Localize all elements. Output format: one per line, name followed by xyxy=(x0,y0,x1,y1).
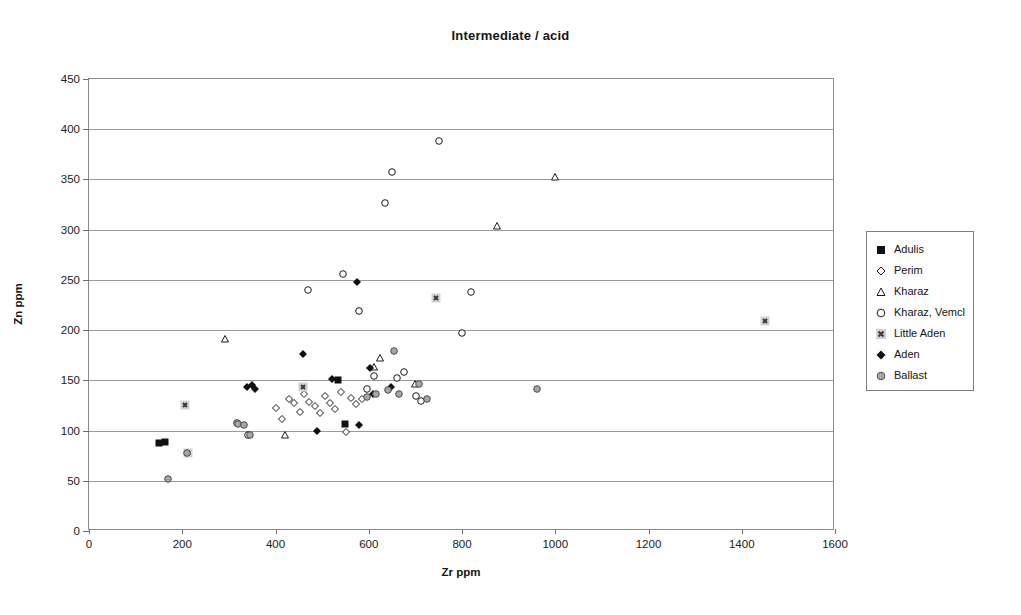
x-tick-label: 1400 xyxy=(729,538,755,550)
legend-item-little-aden[interactable]: Little Aden xyxy=(874,323,968,344)
legend-label: Perim xyxy=(894,265,923,276)
data-point xyxy=(414,380,423,389)
x-tick-mark xyxy=(835,529,836,534)
legend-label: Adulis xyxy=(894,244,924,255)
data-point xyxy=(278,414,287,423)
x-tick-label: 1200 xyxy=(636,538,662,550)
chart-legend: AdulisPerimKharazKharaz, VemclLittle Ade… xyxy=(866,231,974,391)
data-point xyxy=(492,221,501,230)
legend-marker-icon xyxy=(874,326,889,341)
data-point xyxy=(339,269,348,278)
gridline-horizontal xyxy=(89,280,833,281)
legend-marker-icon xyxy=(874,263,889,278)
data-point xyxy=(182,448,191,457)
data-point xyxy=(370,372,379,381)
data-point xyxy=(280,430,289,439)
data-point xyxy=(761,317,770,326)
y-tick-label: 150 xyxy=(61,374,80,386)
x-tick-label: 600 xyxy=(359,538,378,550)
x-tick-mark xyxy=(276,529,277,534)
data-point xyxy=(316,409,325,418)
data-point xyxy=(362,393,371,402)
y-tick-mark xyxy=(83,280,89,281)
data-point xyxy=(551,173,560,182)
gridline-horizontal xyxy=(89,230,833,231)
data-point xyxy=(220,335,229,344)
legend-label: Kharaz xyxy=(894,286,929,297)
x-tick-mark xyxy=(182,529,183,534)
data-point xyxy=(355,420,364,429)
y-tick-label: 400 xyxy=(61,123,80,135)
gridline-horizontal xyxy=(89,481,833,482)
y-tick-label: 350 xyxy=(61,173,80,185)
legend-item-kharaz-vemcl[interactable]: Kharaz, Vemcl xyxy=(874,302,968,323)
data-point xyxy=(313,426,322,435)
data-point xyxy=(298,350,307,359)
x-tick-mark xyxy=(89,529,90,534)
data-point xyxy=(383,386,392,395)
x-tick-label: 800 xyxy=(452,538,471,550)
y-tick-label: 50 xyxy=(67,475,80,487)
legend-label: Ballast xyxy=(894,370,927,381)
data-point xyxy=(239,420,248,429)
y-tick-label: 450 xyxy=(61,73,80,85)
legend-item-ballast[interactable]: Ballast xyxy=(874,365,968,386)
x-tick-mark xyxy=(742,529,743,534)
gridline-horizontal xyxy=(89,431,833,432)
legend-marker-icon xyxy=(874,242,889,257)
data-point xyxy=(160,437,169,446)
x-tick-label: 1000 xyxy=(542,538,568,550)
data-point xyxy=(467,287,476,296)
data-point xyxy=(328,375,337,384)
legend-item-adulis[interactable]: Adulis xyxy=(874,239,968,260)
x-tick-label: 0 xyxy=(86,538,92,550)
data-point xyxy=(299,383,308,392)
data-point xyxy=(164,474,173,483)
gridline-horizontal xyxy=(89,179,833,180)
legend-item-perim[interactable]: Perim xyxy=(874,260,968,281)
legend-label: Kharaz, Vemcl xyxy=(894,307,965,318)
y-tick-label: 0 xyxy=(74,525,80,537)
y-tick-mark xyxy=(83,230,89,231)
data-point xyxy=(246,430,255,439)
legend-label: Aden xyxy=(894,349,920,360)
data-point xyxy=(304,285,313,294)
y-tick-mark xyxy=(83,129,89,130)
data-point xyxy=(290,399,299,408)
chart-title: Intermediate / acid xyxy=(0,28,1021,43)
x-tick-label: 200 xyxy=(173,538,192,550)
x-axis-title: Zr ppm xyxy=(88,566,834,578)
x-tick-mark xyxy=(649,529,650,534)
data-point xyxy=(395,390,404,399)
y-tick-mark xyxy=(83,380,89,381)
legend-label: Little Aden xyxy=(894,328,945,339)
data-point xyxy=(331,405,340,414)
x-tick-label: 400 xyxy=(266,538,285,550)
data-point xyxy=(250,385,259,394)
data-point xyxy=(376,354,385,363)
y-tick-mark xyxy=(83,79,89,80)
legend-item-kharaz[interactable]: Kharaz xyxy=(874,281,968,302)
y-tick-label: 100 xyxy=(61,425,80,437)
data-point xyxy=(434,137,443,146)
data-point xyxy=(532,385,541,394)
y-tick-label: 250 xyxy=(61,274,80,286)
x-tick-mark xyxy=(555,529,556,534)
y-tick-label: 200 xyxy=(61,324,80,336)
legend-marker-icon xyxy=(874,284,889,299)
data-point xyxy=(388,168,397,177)
legend-marker-icon xyxy=(874,368,889,383)
data-point xyxy=(390,347,399,356)
data-point xyxy=(355,307,364,316)
legend-item-aden[interactable]: Aden xyxy=(874,344,968,365)
data-point xyxy=(371,390,380,399)
data-point xyxy=(458,329,467,338)
data-point xyxy=(353,277,362,286)
y-tick-mark xyxy=(83,481,89,482)
data-point xyxy=(295,408,304,417)
data-point xyxy=(181,401,190,410)
scatter-chart: Intermediate / acid 05010015020025030035… xyxy=(0,0,1021,615)
y-tick-mark xyxy=(83,179,89,180)
x-tick-label: 1600 xyxy=(822,538,848,550)
legend-marker-icon xyxy=(874,347,889,362)
